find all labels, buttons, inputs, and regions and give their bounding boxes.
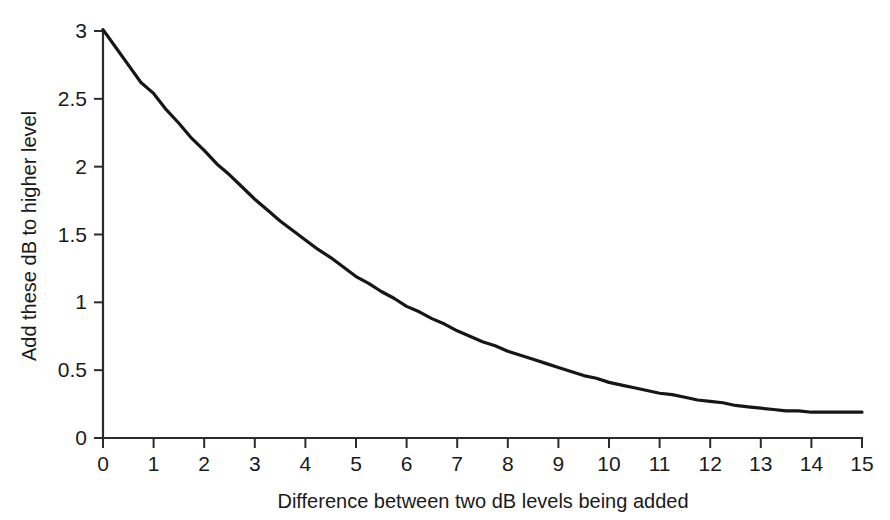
x-axis-title: Difference between two dB levels being a… xyxy=(277,490,688,512)
x-tick-label: 10 xyxy=(597,452,620,475)
y-tick-label: 1 xyxy=(75,290,87,313)
data-series-group xyxy=(103,30,862,413)
x-tick-label: 6 xyxy=(401,452,413,475)
x-axis-ticks: 0123456789101112131415 xyxy=(97,438,874,475)
x-tick-label: 4 xyxy=(300,452,312,475)
x-tick-label: 15 xyxy=(850,452,873,475)
x-tick-label: 2 xyxy=(198,452,210,475)
y-tick-label: 2.5 xyxy=(58,87,87,110)
x-tick-label: 3 xyxy=(249,452,261,475)
x-tick-label: 13 xyxy=(749,452,772,475)
x-tick-label: 0 xyxy=(97,452,109,475)
x-tick-label: 9 xyxy=(553,452,565,475)
line-chart-canvas: Add these dB to higher level Difference … xyxy=(0,0,890,520)
x-tick-label: 11 xyxy=(649,452,671,475)
x-tick-label: 5 xyxy=(350,452,362,475)
y-tick-label: 2 xyxy=(75,155,87,178)
y-tick-label: 0 xyxy=(75,426,87,449)
x-tick-label: 1 xyxy=(148,452,160,475)
y-tick-label: 3 xyxy=(75,19,87,42)
x-tick-label: 12 xyxy=(699,452,722,475)
data-curve xyxy=(103,30,862,413)
chart-figure: Add these dB to higher level Difference … xyxy=(0,0,890,520)
x-tick-label: 8 xyxy=(502,452,514,475)
y-tick-label: 0.5 xyxy=(58,358,87,381)
y-axis-ticks: 00.511.522.53 xyxy=(58,19,103,449)
y-tick-label: 1.5 xyxy=(58,223,87,246)
x-tick-label: 7 xyxy=(451,452,463,475)
x-tick-label: 14 xyxy=(800,452,824,475)
y-axis-title: Add these dB to higher level xyxy=(18,111,40,361)
